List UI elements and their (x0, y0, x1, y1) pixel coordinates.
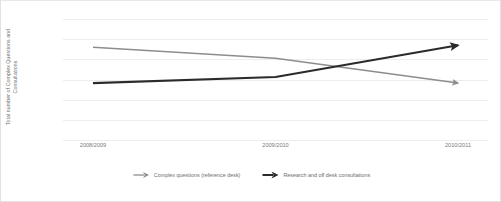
chart-container: Total number of Complex Questions and Co… (0, 0, 501, 202)
legend-label: Research and off desk consultations (283, 172, 370, 178)
x-axis-tick-label: 2010/2011 (445, 142, 471, 148)
legend-item[interactable]: Complex questions (reference desk) (133, 171, 241, 179)
x-axis-tick-label: 2009/2010 (262, 142, 288, 148)
legend-item[interactable]: Research and off desk consultations (262, 171, 370, 179)
x-axis-tick-label: 2008/2009 (80, 142, 106, 148)
legend-label: Complex questions (reference desk) (154, 172, 241, 178)
x-axis-ticks: 2008/20092009/20102010/2011 (63, 142, 488, 154)
y-axis-title: Total number of Complex Questions and Co… (5, 0, 27, 12)
y-axis-title-line-1: Total number of Complex Questions and (5, 12, 12, 142)
arrow-right-icon (133, 171, 150, 179)
arrow-right-icon (262, 171, 279, 179)
gridline (63, 140, 488, 141)
series-lines (63, 19, 488, 140)
y-axis-title-line-2: Consultations (12, 12, 19, 142)
chart-legend: Complex questions (reference desk)Resear… (1, 168, 501, 182)
plot-area: 120010008006004002000 (63, 19, 488, 140)
